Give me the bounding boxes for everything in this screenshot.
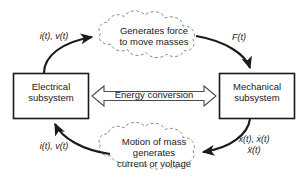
- diagram-canvas: Electrical subsystem Mechanical subsyste…: [0, 0, 308, 193]
- top-cloud-label-line2: to move masses: [103, 37, 205, 48]
- signal-label-bottom-right: x(t), ẋ(t) ẍ(t): [222, 134, 286, 157]
- signal-label-top-right: F(t): [222, 32, 256, 42]
- signal-label-bottom-right-line1: x(t), ẋ(t): [222, 134, 286, 145]
- electrical-subsystem-label: Electrical subsystem: [14, 82, 88, 104]
- mechanical-subsystem-label: Mechanical subsystem: [220, 82, 294, 104]
- signal-label-bottom-left: i(t), v(t): [26, 141, 82, 151]
- signal-label-top-left: i(t), v(t): [26, 31, 82, 41]
- signal-label-bottom-right-line2: ẍ(t): [222, 145, 286, 156]
- mechanical-subsystem-label-line2: subsystem: [220, 93, 294, 104]
- electrical-subsystem-label-line2: subsystem: [14, 93, 88, 104]
- bottom-cloud-label-line3: current or voltage: [103, 159, 205, 170]
- top-cloud-label: Generates force to move masses: [103, 26, 205, 48]
- bottom-cloud-label: Motion of mass generates current or volt…: [103, 137, 205, 170]
- energy-conversion-label: Energy conversion: [104, 90, 204, 101]
- arrow-electrical-to-top-cloud: [44, 37, 92, 73]
